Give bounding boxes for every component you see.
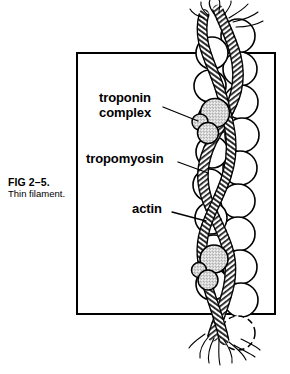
figure-caption: FIG 2–5. Thin filament. (8, 176, 74, 200)
figure-number: FIG 2–5. (8, 176, 74, 188)
figure-page: FIG 2–5. Thin filament. (0, 0, 290, 374)
figure-title: Thin filament. (8, 188, 74, 200)
label-troponin-complex: troponin complex (99, 91, 151, 120)
label-actin-line1: actin (132, 202, 162, 217)
label-troponin-line1: troponin (99, 91, 151, 106)
label-troponin-line2: complex (99, 106, 151, 121)
filament-frayed-end-bottom (189, 334, 260, 365)
label-actin: actin (132, 202, 162, 217)
label-tropomyosin-line1: tropomyosin (86, 152, 164, 167)
filament-frayed-end-top (190, 0, 263, 27)
actin-bead-broken-bottom (221, 316, 255, 350)
label-tropomyosin: tropomyosin (86, 152, 164, 167)
